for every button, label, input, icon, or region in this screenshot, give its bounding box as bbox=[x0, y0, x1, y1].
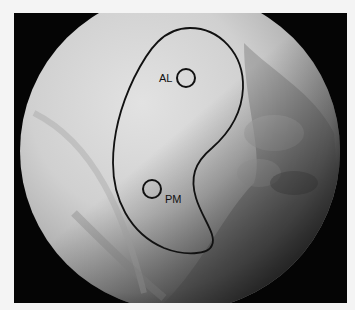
arthroscopic-image-frame: AL PM bbox=[14, 13, 347, 303]
pm-label: PM bbox=[165, 193, 181, 205]
al-label: AL bbox=[159, 72, 172, 84]
arthroscopic-view bbox=[14, 13, 347, 303]
